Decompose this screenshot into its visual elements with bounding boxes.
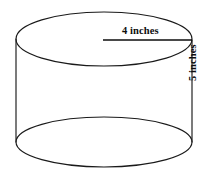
cylinder-diagram: 4 inches 5 inches [0,0,213,178]
bottom-face-ellipse [16,117,192,167]
radius-label: 4 inches [122,26,159,37]
height-label: 5 inches [188,44,199,81]
top-face-ellipse [16,12,192,66]
cylinder-drawing [0,0,213,178]
